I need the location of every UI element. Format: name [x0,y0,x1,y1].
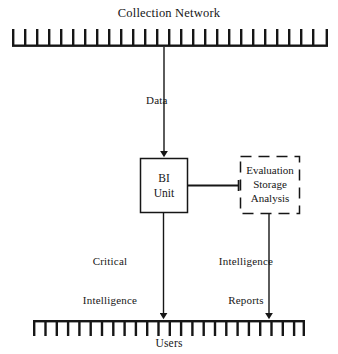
edge-label-data: Data [146,94,168,107]
diagram-canvas: Collection Network Data BI Unit Evaluati… [0,0,338,354]
edge-label-critical-intelligence-line1: Critical [60,255,160,268]
esa-label-line1: Evaluation [246,164,294,178]
bi-unit-label-line1: BI [158,171,170,185]
users-label: Users [0,337,338,351]
edge-bi-to-esa [188,180,240,191]
esa-label-line2: Storage [253,178,287,192]
bi-unit-label-group: BI Unit [140,158,188,213]
esa-label-line3: Analysis [251,192,290,206]
edge-label-intelligence-reports-line2: Reports [196,294,296,307]
collection-network-bar [12,29,328,47]
edge-label-intelligence-reports-line1: Intelligence [196,255,296,268]
esa-label-group: Evaluation Storage Analysis [240,156,300,214]
bi-unit-label-line2: Unit [154,186,174,200]
edge-label-intelligence-reports: Intelligence Reports [196,229,296,333]
collection-network-label: Collection Network [0,6,338,21]
edge-label-critical-intelligence: Critical Intelligence [60,229,160,333]
edge-label-critical-intelligence-line2: Intelligence [60,294,160,307]
